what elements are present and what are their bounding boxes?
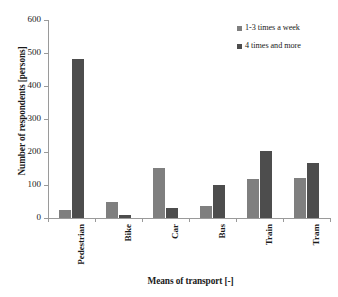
bar[interactable]	[294, 178, 306, 218]
y-tick: 400	[0, 86, 48, 87]
legend-label: 4 times and more	[245, 39, 301, 53]
bar-group	[142, 20, 189, 218]
legend-label: 1-3 times a week	[245, 21, 300, 35]
x-category-label: Tram	[311, 224, 321, 245]
y-tick-label: 300	[28, 112, 42, 125]
y-tick-label: 100	[28, 178, 42, 191]
bar[interactable]	[106, 202, 118, 218]
y-tick: 0	[0, 218, 48, 219]
x-category-label: Car	[170, 224, 180, 239]
legend-swatch-icon	[237, 44, 242, 49]
bar-group	[48, 20, 95, 218]
chart-legend: 1-3 times a week4 times and more	[237, 21, 301, 57]
bar[interactable]	[200, 206, 212, 218]
y-tick-label: 600	[28, 13, 42, 26]
x-tick-mark	[142, 218, 143, 222]
y-tick-label: 500	[28, 46, 42, 59]
y-tick: 100	[0, 185, 48, 186]
x-tick-mark	[95, 218, 96, 222]
bar-chart-figure: Number of respondents [persons] 01002003…	[0, 0, 338, 297]
x-tick-mark	[283, 218, 284, 222]
bar[interactable]	[72, 59, 84, 218]
bar-group	[95, 20, 142, 218]
y-tick: 300	[0, 119, 48, 120]
y-tick-label: 400	[28, 79, 42, 92]
x-category-label: Train	[264, 224, 274, 245]
x-tick-mark	[189, 218, 190, 222]
x-category-label: Pedestrian	[76, 224, 86, 265]
x-tick-mark	[236, 218, 237, 222]
legend-item[interactable]: 1-3 times a week	[237, 21, 301, 35]
y-tick-label: 0	[37, 211, 42, 224]
legend-item[interactable]: 4 times and more	[237, 39, 301, 53]
y-tick-label: 200	[28, 145, 42, 158]
y-tick: 200	[0, 152, 48, 153]
y-tick: 600	[0, 20, 48, 21]
x-category-label: Bus	[217, 224, 227, 239]
legend-swatch-icon	[237, 26, 242, 31]
x-tick-mark	[330, 218, 331, 222]
bar[interactable]	[119, 215, 131, 218]
bar[interactable]	[59, 210, 71, 218]
y-axis-title: Number of respondents [persons]	[17, 16, 27, 206]
y-tick: 500	[0, 53, 48, 54]
bar[interactable]	[213, 185, 225, 218]
x-axis-title: Means of transport [-]	[48, 276, 333, 286]
bar[interactable]	[247, 179, 259, 218]
bar[interactable]	[153, 168, 165, 218]
bar[interactable]	[307, 163, 319, 218]
bar-group	[189, 20, 236, 218]
bar[interactable]	[260, 151, 272, 218]
bar[interactable]	[166, 208, 178, 218]
x-tick-mark	[48, 218, 49, 222]
x-category-label: Bike	[123, 224, 133, 241]
